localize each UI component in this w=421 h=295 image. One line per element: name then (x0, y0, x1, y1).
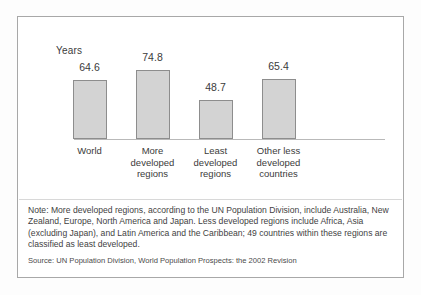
bar-group-other-less-developed: 65.4 Other less developed countries (247, 17, 310, 199)
bar-chart: Years 64.6 World 74.8 More developed reg… (18, 17, 403, 199)
bar-value-label: 64.6 (58, 61, 121, 73)
label-line: regions (117, 168, 188, 180)
source-text: Source: UN Population Division, World Po… (28, 256, 395, 266)
bar-least-developed-regions[interactable] (199, 100, 233, 139)
label-line: developed (117, 157, 188, 169)
note-text: Note: More developed regions, according … (28, 205, 395, 250)
bar-category-label-other-less-developed: Other less developed countries (243, 145, 314, 180)
label-line: countries (243, 168, 314, 180)
label-line: World (54, 145, 125, 157)
notes-block: Note: More developed regions, according … (28, 205, 395, 266)
label-line: Other less (243, 145, 314, 157)
label-line: More (117, 145, 188, 157)
bar-value-label: 48.7 (184, 81, 247, 93)
bar-other-less-developed-countries[interactable] (262, 79, 296, 139)
bar-category-label-least-developed: Least developed regions (180, 145, 251, 180)
label-line: regions (180, 168, 251, 180)
bar-group-more-developed: 74.8 More developed regions (121, 17, 184, 199)
label-line: developed (180, 157, 251, 169)
bar-group-least-developed: 48.7 Least developed regions (184, 17, 247, 199)
bar-category-label-world: World (54, 145, 125, 157)
bar-value-label: 65.4 (247, 60, 310, 72)
bar-group-world: 64.6 World (58, 17, 121, 199)
figure-container: Years 64.6 World 74.8 More developed reg… (0, 0, 421, 295)
bar-more-developed-regions[interactable] (136, 70, 170, 139)
bar-world[interactable] (73, 80, 107, 139)
chart-frame: Years 64.6 World 74.8 More developed reg… (17, 16, 404, 278)
bar-category-label-more-developed: More developed regions (117, 145, 188, 180)
bar-value-label: 74.8 (121, 51, 184, 63)
section-divider (19, 199, 402, 200)
label-line: developed (243, 157, 314, 169)
label-line: Least (180, 145, 251, 157)
